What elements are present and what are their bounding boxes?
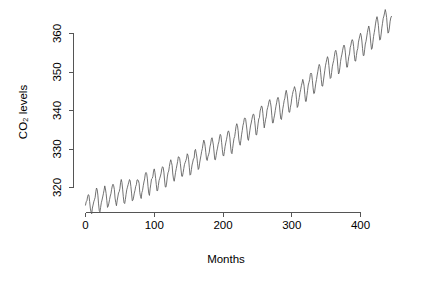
y-axis-title-label: CO₂ levels	[17, 85, 29, 140]
x-axis-title-label: Months	[207, 253, 245, 265]
y-axis-title: CO₂ levels	[17, 85, 29, 140]
y-tick-label: 320	[51, 178, 63, 197]
x-tick-label: 100	[145, 219, 164, 231]
x-tick-label: 400	[351, 219, 370, 231]
x-tick-label: 0	[82, 219, 88, 231]
chart-canvas: 320330340350360 0100200300400 CO₂ levels…	[0, 0, 428, 282]
y-tick-label: 350	[51, 62, 63, 81]
chart-background	[0, 0, 428, 282]
co2-line-chart: 320330340350360 0100200300400 CO₂ levels…	[0, 0, 428, 282]
y-tick-label: 330	[51, 139, 63, 158]
x-axis-title: Months	[207, 253, 245, 265]
x-tick-label: 300	[282, 219, 301, 231]
y-tick-label: 360	[51, 24, 63, 43]
y-tick-label: 340	[51, 101, 63, 120]
x-tick-label: 200	[213, 219, 232, 231]
